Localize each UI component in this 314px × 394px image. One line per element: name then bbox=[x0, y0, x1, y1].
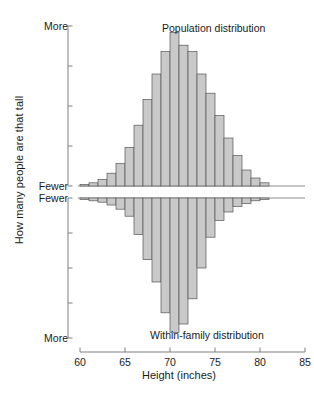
x-axis bbox=[80, 348, 305, 353]
histogram-bar bbox=[143, 198, 152, 260]
histogram-bar bbox=[233, 198, 242, 206]
histogram-bar bbox=[206, 198, 215, 237]
histogram-bar bbox=[197, 198, 206, 268]
annotation-population-distribution: Population distribution bbox=[162, 22, 265, 34]
x-tick-label: 65 bbox=[119, 356, 131, 368]
histogram-bar bbox=[206, 93, 215, 186]
histogram-bar bbox=[134, 198, 143, 234]
histogram-population bbox=[80, 32, 269, 186]
histogram-bar bbox=[80, 198, 89, 199]
histogram-bar bbox=[152, 74, 161, 186]
histogram-bar bbox=[242, 170, 251, 186]
histogram-bar bbox=[98, 180, 107, 186]
histogram-bar bbox=[188, 198, 197, 299]
y-axis-bottom-panel bbox=[68, 198, 73, 338]
histogram-bar bbox=[260, 198, 269, 199]
histogram-bar bbox=[89, 183, 98, 186]
histogram-bar bbox=[251, 178, 260, 186]
x-tick-label: 75 bbox=[209, 356, 221, 368]
histogram-bar bbox=[161, 198, 170, 313]
histogram-bar bbox=[233, 156, 242, 186]
histogram-bar bbox=[116, 198, 125, 209]
histogram-bar bbox=[251, 198, 260, 201]
histogram-bar bbox=[125, 198, 134, 216]
histogram-bar bbox=[224, 138, 233, 186]
x-tick-label: 70 bbox=[164, 356, 176, 368]
histogram-bar bbox=[107, 173, 116, 186]
histogram-bar bbox=[170, 32, 179, 186]
histogram-bar bbox=[197, 74, 206, 186]
y-axis-top-panel bbox=[68, 26, 73, 186]
histogram-bar bbox=[116, 164, 125, 186]
histogram-bar bbox=[242, 198, 251, 204]
histogram-bar bbox=[107, 198, 116, 205]
histogram-bar bbox=[134, 125, 143, 186]
histogram-bar bbox=[215, 198, 224, 220]
histogram-bar bbox=[188, 52, 197, 186]
histogram-bar bbox=[179, 198, 188, 324]
histogram-bar bbox=[260, 183, 269, 186]
x-axis-title: Height (inches) bbox=[0, 369, 314, 381]
histogram-bar bbox=[143, 100, 152, 186]
histogram-bar bbox=[152, 198, 161, 282]
histogram-bar bbox=[161, 52, 170, 186]
x-axis-title-text: Height (inches) bbox=[98, 369, 216, 381]
x-tick-label: 85 bbox=[299, 356, 311, 368]
histogram-bar bbox=[170, 198, 179, 332]
histogram-bar bbox=[224, 198, 233, 212]
figure: How many people are that tall More Fewer… bbox=[0, 0, 314, 394]
histogram-bar bbox=[179, 45, 188, 186]
annotation-within-family-distribution: Within-family distribution bbox=[150, 329, 264, 341]
x-tick-label: 80 bbox=[254, 356, 266, 368]
histogram-bar bbox=[80, 184, 89, 186]
histogram-bar bbox=[125, 148, 134, 186]
histogram-within-family bbox=[80, 198, 269, 332]
histogram-bar bbox=[215, 116, 224, 186]
histogram-bar bbox=[98, 198, 107, 202]
x-tick-label: 60 bbox=[74, 356, 86, 368]
histogram-bar bbox=[89, 198, 98, 201]
